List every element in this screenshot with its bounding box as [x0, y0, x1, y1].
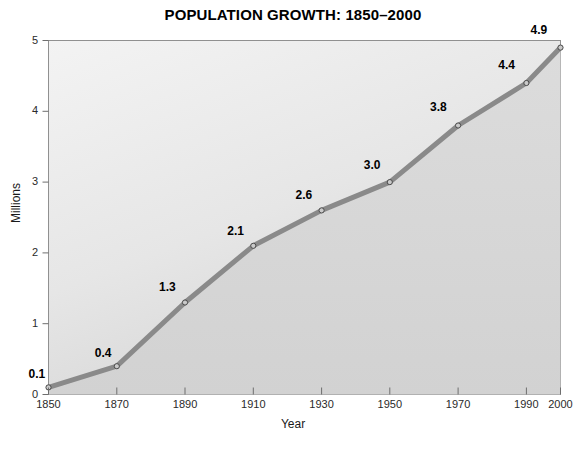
- data-point-label: 0.1: [29, 367, 46, 381]
- y-tick-label: 4: [12, 104, 38, 116]
- data-point-marker: [387, 180, 392, 185]
- data-point-label: 2.6: [296, 188, 313, 202]
- y-tick-label: 2: [12, 246, 38, 258]
- y-axis-title: Millions: [9, 163, 23, 243]
- x-tick-label: 2000: [531, 398, 586, 410]
- data-point-label: 3.0: [364, 158, 381, 172]
- x-tick-label: 1870: [87, 398, 147, 410]
- y-axis-ticks: [43, 41, 49, 395]
- data-point-label: 1.3: [159, 280, 176, 294]
- x-tick-label: 1970: [428, 398, 488, 410]
- x-tick-label: 1890: [155, 398, 215, 410]
- data-point-marker: [251, 243, 256, 248]
- data-point-marker: [558, 45, 563, 50]
- x-axis-title: Year: [0, 417, 586, 431]
- data-point-marker: [456, 123, 461, 128]
- data-point-marker: [182, 300, 187, 305]
- data-point-marker: [114, 364, 119, 369]
- x-tick-label: 1930: [292, 398, 352, 410]
- data-point-label: 3.8: [430, 100, 447, 114]
- data-point-label: 4.9: [531, 23, 548, 37]
- data-point-label: 4.4: [498, 58, 515, 72]
- y-tick-label: 5: [12, 34, 38, 46]
- population-growth-chart: POPULATION GROWTH: 1850–2000 012345 18: [0, 0, 586, 449]
- data-point-label: 2.1: [227, 224, 244, 238]
- y-tick-label: 1: [12, 317, 38, 329]
- x-tick-label: 1850: [19, 398, 79, 410]
- x-tick-label: 1910: [223, 398, 283, 410]
- data-point-marker: [524, 80, 529, 85]
- data-point-label: 0.4: [95, 346, 112, 360]
- data-point-marker: [319, 208, 324, 213]
- x-tick-label: 1950: [360, 398, 420, 410]
